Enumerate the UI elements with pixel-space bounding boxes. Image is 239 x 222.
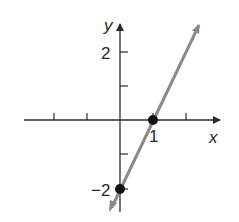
point-x-intercept (148, 115, 158, 125)
y-tick-label-2: 2 (101, 44, 110, 63)
chart-canvas: y 2 −2 1 x (0, 0, 239, 222)
x-tick-label-1: 1 (149, 127, 158, 146)
y-axis-label: y (103, 16, 114, 35)
y-tick-label-neg2: −2 (91, 181, 110, 200)
point-y-intercept (115, 184, 125, 194)
x-axis-label: x (208, 128, 218, 147)
